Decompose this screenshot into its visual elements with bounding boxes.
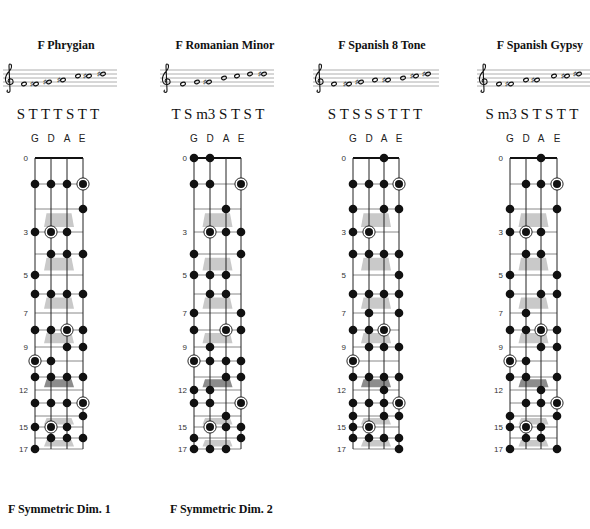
finger-dot-icon — [506, 228, 515, 237]
finger-dot-icon — [365, 309, 374, 318]
step-pattern-spanish-8-tone: S T S S S T T T — [305, 106, 445, 123]
root-ring-icon — [347, 355, 359, 367]
finger-dot-icon — [190, 434, 199, 443]
finger-dot-icon — [380, 343, 389, 352]
root-ring-icon — [45, 226, 57, 238]
finger-dot-icon — [522, 250, 531, 259]
finger-dot-icon — [380, 180, 389, 189]
finger-dot-icon — [349, 180, 358, 189]
fret-marker — [361, 258, 391, 271]
fret-number-label: 15 — [19, 423, 28, 432]
finger-dot-icon — [553, 445, 562, 454]
finger-dot-icon — [537, 228, 546, 237]
finger-dot-icon — [206, 154, 215, 163]
scale-title-symmetric-dim-2: F Symmetric Dim. 2 — [170, 502, 273, 517]
finger-dot-icon — [237, 250, 246, 259]
double-fret-marker — [519, 379, 549, 387]
finger-dot-icon — [365, 326, 374, 335]
root-ring-icon — [378, 324, 390, 336]
finger-dot-icon — [506, 412, 515, 421]
finger-dot-icon — [79, 373, 88, 382]
finger-dot-icon — [63, 423, 72, 432]
fret-number-label: 7 — [183, 309, 188, 318]
finger-dot-icon — [553, 373, 562, 382]
finger-dot-icon — [349, 373, 358, 382]
finger-dot-icon — [380, 250, 389, 259]
fret-number-label: 5 — [499, 271, 504, 280]
fret-number-label: 5 — [342, 271, 347, 280]
finger-dot-icon — [395, 343, 404, 352]
fret-number-label: 17 — [178, 445, 187, 454]
root-ring-icon — [77, 397, 89, 409]
finger-dot-icon — [365, 290, 374, 299]
finger-dot-icon — [553, 205, 562, 214]
finger-dot-icon — [237, 373, 246, 382]
finger-dot-icon — [31, 180, 40, 189]
finger-dot-icon — [380, 434, 389, 443]
fret-number-label: 9 — [342, 343, 347, 352]
fret-marker — [519, 297, 549, 308]
music-staff: ♯♯♯♯ — [477, 64, 590, 92]
finger-dot-icon — [349, 423, 358, 432]
finger-dot-icon — [380, 373, 389, 382]
double-fret-marker — [361, 379, 391, 387]
fret-number-label: 17 — [19, 445, 28, 454]
finger-dot-icon — [47, 357, 56, 366]
string-label-e: E — [550, 133, 564, 144]
finger-dot-icon — [380, 399, 389, 408]
fret-marker — [519, 258, 549, 271]
finger-dot-icon — [31, 373, 40, 382]
finger-dot-icon — [365, 373, 374, 382]
root-ring-icon — [61, 324, 73, 336]
finger-dot-icon — [349, 290, 358, 299]
fret-number-label: 7 — [342, 309, 347, 318]
root-ring-icon — [188, 355, 200, 367]
fret-number-label: 12 — [494, 386, 503, 395]
string-label-a: A — [377, 133, 391, 144]
fret-marker — [361, 297, 391, 308]
finger-dot-icon — [537, 423, 546, 432]
double-fret-marker — [44, 379, 74, 387]
finger-dot-icon — [190, 399, 199, 408]
finger-dot-icon — [553, 290, 562, 299]
finger-dot-icon — [395, 434, 404, 443]
finger-dot-icon — [522, 373, 531, 382]
finger-dot-icon — [395, 445, 404, 454]
fret-number-label: 0 — [499, 154, 504, 163]
string-label-e: E — [234, 133, 248, 144]
fret-marker — [44, 213, 74, 227]
root-ring-icon — [235, 397, 247, 409]
finger-dot-icon — [349, 250, 358, 259]
scale-title-romanian-minor: F Romanian Minor — [155, 38, 295, 53]
finger-dot-icon — [553, 412, 562, 421]
finger-dot-icon — [395, 309, 404, 318]
finger-dot-icon — [349, 205, 358, 214]
fret-number-label: 3 — [342, 228, 347, 237]
finger-dot-icon — [506, 373, 515, 382]
finger-dot-icon — [47, 399, 56, 408]
root-ring-icon — [504, 355, 516, 367]
step-pattern-phrygian: S T T T S T T — [0, 106, 128, 123]
string-label-e: E — [392, 133, 406, 144]
finger-dot-icon — [237, 434, 246, 443]
finger-dot-icon — [365, 180, 374, 189]
fret-number-label: 3 — [499, 228, 504, 237]
finger-dot-icon — [395, 290, 404, 299]
finger-dot-icon — [206, 399, 215, 408]
fret-marker — [44, 258, 74, 271]
finger-dot-icon — [222, 228, 231, 237]
fret-number-label: 5 — [183, 271, 188, 280]
finger-dot-icon — [506, 423, 515, 432]
finger-dot-icon — [222, 445, 231, 454]
finger-dot-icon — [349, 399, 358, 408]
finger-dot-icon — [31, 423, 40, 432]
finger-dot-icon — [537, 250, 546, 259]
string-label-d: D — [519, 133, 533, 144]
finger-dot-icon — [222, 290, 231, 299]
music-staff: ♯♯♯♯♯ — [3, 64, 117, 92]
finger-dot-icon — [31, 399, 40, 408]
finger-dot-icon — [380, 386, 389, 395]
finger-dot-icon — [237, 228, 246, 237]
string-label-g: G — [503, 133, 517, 144]
fret-number-label: 0 — [24, 154, 29, 163]
